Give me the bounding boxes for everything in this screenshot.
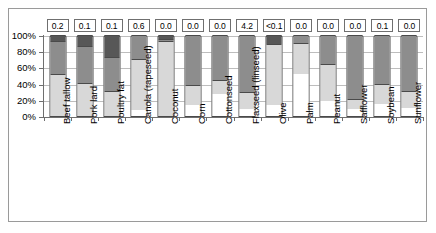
x-axis-tick: [71, 117, 72, 121]
x-axis-tick: [98, 117, 99, 121]
x-axis-tick: [125, 117, 126, 121]
value-label-box: 0.1: [101, 19, 123, 32]
bar-segment-4: [50, 35, 65, 41]
x-axis-tick: [369, 117, 370, 121]
value-label-box: 0.6: [128, 19, 150, 32]
x-axis-tick: [179, 117, 180, 121]
category-label: Coconut: [170, 89, 179, 124]
bar-segment-4: [77, 35, 92, 46]
category-label: Cottonseed: [224, 75, 233, 124]
bar-segment-3: [321, 35, 336, 64]
category-label: Peanut: [332, 94, 341, 124]
value-label-box: 0.0: [398, 19, 420, 32]
value-label-box: 0.0: [209, 19, 231, 32]
x-axis-tick: [288, 117, 289, 121]
x-axis-tick: [315, 117, 316, 121]
value-label-box: 0.0: [182, 19, 204, 32]
value-label-box: 0.1: [74, 19, 96, 32]
value-label-box: 0.0: [290, 19, 312, 32]
y-axis-tick-label: 20%: [17, 96, 36, 105]
x-axis-tick: [261, 117, 262, 121]
bar-segment-2: [294, 43, 309, 74]
value-label-box: 0.0: [317, 19, 339, 32]
bar-segment-2: [267, 44, 282, 105]
category-label: Poultry fat: [116, 81, 125, 124]
value-label-box: 0.1: [371, 19, 393, 32]
category-label: Flaxseed (linseed): [251, 46, 260, 124]
bar-segment-3: [77, 46, 92, 82]
bar-segment-3: [185, 35, 200, 85]
bar-segment-3: [50, 41, 65, 74]
category-label: Canola (rapeseed): [143, 45, 152, 124]
y-axis-tick-labels: 0%20%40%60%80%100%: [0, 0, 44, 233]
y-axis-tick-label: 80%: [17, 47, 36, 56]
category-label: Beef tallow: [62, 78, 71, 124]
category-label: Soybean: [386, 86, 395, 124]
category-label: Sunflower: [413, 82, 422, 124]
category-label: Olive: [278, 102, 287, 124]
bar-segment-3: [158, 39, 173, 41]
category-label: Pork lard: [89, 86, 98, 124]
y-axis-tick-label: 100%: [12, 31, 36, 40]
x-axis-tick: [234, 117, 235, 121]
y-axis-tick-label: 60%: [17, 63, 36, 72]
category-label: Safflower: [359, 85, 368, 124]
bar-segment-3: [212, 35, 227, 80]
x-axis-tick: [152, 117, 153, 121]
x-axis-tick: [206, 117, 207, 121]
bar-segment-4: [104, 35, 119, 57]
value-label-box: 4.2: [236, 19, 258, 32]
value-label-box: <0.1: [263, 19, 285, 32]
bar-segment-4: [267, 35, 282, 44]
category-label: Palm: [305, 102, 314, 124]
x-axis-tick: [342, 117, 343, 121]
chart-figure: 0%20%40%60%80%100% 0.20.10.10.60.00.00.0…: [0, 0, 436, 233]
category-label: Corn: [197, 103, 206, 124]
value-label-box: 0.2: [47, 19, 69, 32]
bar-segment-3: [294, 35, 309, 43]
x-axis-tick: [44, 117, 45, 121]
x-axis-tick: [396, 117, 397, 121]
bar-segment-3: [375, 35, 390, 84]
value-label-box: 0.0: [344, 19, 366, 32]
value-label-box: 0.0: [155, 19, 177, 32]
bar-segment-4: [158, 35, 173, 39]
x-axis-tick: [423, 117, 424, 121]
y-axis-tick-label: 0%: [22, 112, 36, 121]
y-axis-tick-label: 40%: [17, 80, 36, 89]
